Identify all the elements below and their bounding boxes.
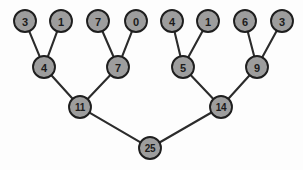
tree-node-label: 3	[22, 16, 28, 28]
tree-edge	[47, 29, 58, 58]
tree-edge	[174, 30, 181, 59]
tree-node-label: 3	[279, 16, 285, 28]
tree-node-label: 0	[133, 16, 139, 28]
tree-node-label: 5	[180, 62, 186, 74]
tree-edge	[86, 74, 112, 101]
tree-node[interactable]: 25	[139, 137, 161, 159]
edge-layer	[28, 29, 277, 144]
tree-node-label: 6	[242, 16, 248, 28]
tree-node[interactable]: 6	[234, 10, 256, 32]
binary-tree-graphic: 317041634759111425	[0, 0, 303, 170]
tree-node-label: 7	[95, 16, 101, 28]
tree-node[interactable]: 7	[87, 10, 109, 32]
tree-edge	[227, 74, 251, 101]
tree-node[interactable]: 4	[161, 10, 183, 32]
tree-node[interactable]: 9	[246, 56, 268, 78]
tree-node-label: 1	[205, 16, 211, 28]
tree-edge	[88, 112, 142, 144]
tree-node-label: 4	[169, 16, 176, 28]
tree-node-label: 7	[115, 62, 121, 74]
tree-edge	[102, 29, 115, 59]
tree-edge	[158, 112, 213, 144]
tree-edge	[247, 30, 254, 59]
tree-edge	[28, 29, 40, 58]
tree-node-label: 14	[216, 102, 227, 113]
tree-diagram-canvas: 317041634759111425	[0, 0, 303, 170]
tree-node[interactable]: 11	[69, 96, 91, 118]
tree-node[interactable]: 1	[50, 10, 72, 32]
tree-edge	[121, 29, 132, 58]
tree-edge	[189, 74, 215, 101]
tree-node[interactable]: 3	[14, 10, 36, 32]
tree-node[interactable]: 3	[271, 10, 293, 32]
tree-node-label: 4	[41, 62, 48, 74]
tree-edge	[187, 29, 203, 59]
tree-edge	[261, 29, 277, 59]
tree-node-label: 11	[75, 102, 86, 113]
tree-node[interactable]: 4	[33, 56, 55, 78]
tree-node-label: 1	[58, 16, 64, 28]
tree-node[interactable]: 7	[107, 56, 129, 78]
tree-node[interactable]: 1	[197, 10, 219, 32]
tree-node[interactable]: 14	[210, 96, 232, 118]
tree-node[interactable]: 5	[172, 56, 194, 78]
tree-node-label: 25	[145, 143, 156, 154]
tree-node[interactable]: 0	[125, 10, 147, 32]
tree-edge	[50, 74, 74, 101]
tree-node-label: 9	[254, 62, 260, 74]
